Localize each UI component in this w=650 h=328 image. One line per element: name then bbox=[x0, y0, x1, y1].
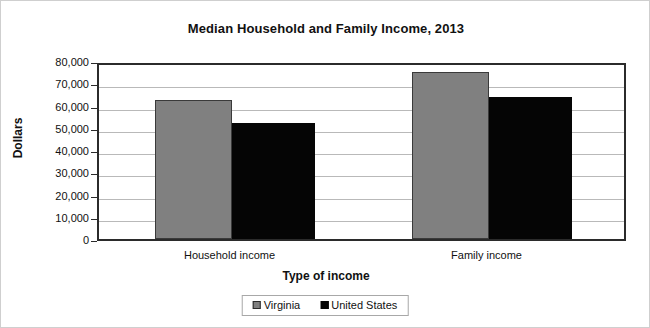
legend-label: United States bbox=[331, 299, 397, 311]
y-tick-label: 30,000 bbox=[33, 168, 89, 179]
y-tick-label: 40,000 bbox=[33, 146, 89, 157]
black-square-icon bbox=[320, 301, 328, 309]
gray-square-icon bbox=[253, 301, 261, 309]
plot-area bbox=[97, 63, 626, 241]
y-tick-label: 50,000 bbox=[33, 124, 89, 135]
y-tick-mark bbox=[91, 241, 97, 242]
x-axis-title: Type of income bbox=[1, 269, 650, 283]
y-tick-label: 80,000 bbox=[33, 57, 89, 68]
y-tick-label: 70,000 bbox=[33, 79, 89, 90]
y-tick-label: 10,000 bbox=[33, 213, 89, 224]
bar-united-states-family-income[interactable] bbox=[489, 97, 572, 239]
bar-virginia-household-income[interactable] bbox=[155, 100, 232, 239]
y-tick-label: 60,000 bbox=[33, 102, 89, 113]
y-axis-title: Dollars bbox=[11, 108, 25, 168]
bar-virginia-family-income[interactable] bbox=[412, 72, 489, 239]
legend-label: Virginia bbox=[264, 299, 301, 311]
legend-entry-united-states[interactable]: United States bbox=[320, 299, 397, 311]
legend-entry-virginia[interactable]: Virginia bbox=[253, 299, 301, 311]
x-category-label: Family income bbox=[407, 249, 567, 261]
y-tick-label: 20,000 bbox=[33, 191, 89, 202]
chart-legend: VirginiaUnited States bbox=[242, 295, 409, 316]
gridline bbox=[99, 87, 624, 88]
bar-chart: Median Household and Family Income, 2013… bbox=[0, 0, 650, 328]
chart-title: Median Household and Family Income, 2013 bbox=[1, 21, 650, 36]
bar-united-states-household-income[interactable] bbox=[232, 123, 315, 239]
y-tick-label: 0 bbox=[33, 235, 89, 246]
x-category-label: Household income bbox=[150, 249, 310, 261]
